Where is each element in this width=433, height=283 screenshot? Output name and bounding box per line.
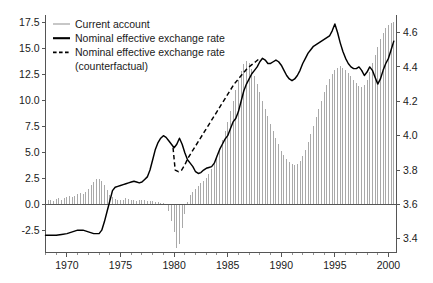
x-axis-tick-label: 1975	[109, 259, 133, 271]
x-axis-tick-label: 1985	[216, 259, 240, 271]
x-axis-tick-label: 1980	[162, 259, 186, 271]
right-axis-tick-label: 3.4	[403, 232, 418, 244]
right-axis-tick-label: 4.0	[403, 129, 418, 141]
left-axis-tick-label: 15.0	[19, 42, 40, 54]
right-axis-tick-label: 3.6	[403, 198, 418, 210]
legend-label: (counterfactual)	[75, 60, 148, 72]
x-axis-tick-label: 1990	[270, 259, 294, 271]
right-axis-tick-label: 4.4	[403, 61, 418, 73]
left-axis-tick-label: 2.5	[25, 172, 40, 184]
left-axis-tick-label: 5.0	[25, 146, 40, 158]
left-axis-tick-label: 10.0	[19, 94, 40, 106]
right-axis-tick-label: 4.6	[403, 26, 418, 38]
chart-plot-area: -2.50.02.55.07.510.012.515.017.53.43.63.…	[0, 0, 433, 283]
left-axis-tick-label: 0.0	[25, 198, 40, 210]
left-axis-tick-label: 7.5	[25, 120, 40, 132]
legend-label: Nominal effective exchange rate	[75, 32, 225, 44]
legend-label: Current account	[75, 18, 150, 30]
right-axis-tick-label: 4.2	[403, 95, 418, 107]
x-axis-tick-label: 2000	[377, 259, 401, 271]
left-axis-tick-label: 12.5	[19, 68, 40, 80]
x-axis-tick-label: 1995	[323, 259, 347, 271]
chart-legend: Current accountNominal effective exchang…	[53, 18, 225, 73]
chart-figure: -2.50.02.55.07.510.012.515.017.53.43.63.…	[0, 0, 433, 283]
left-axis-tick-label: -2.5	[21, 224, 39, 236]
legend-label: Nominal effective exchange rate	[75, 46, 225, 58]
x-axis-tick-label: 1970	[55, 259, 79, 271]
left-axis-tick-label: 17.5	[19, 16, 40, 28]
right-axis-tick-label: 3.8	[403, 164, 418, 176]
